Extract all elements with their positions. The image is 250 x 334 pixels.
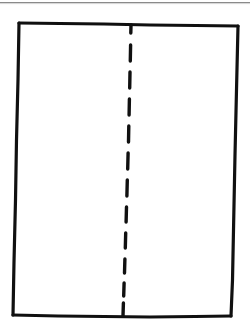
figure-canvas (0, 0, 250, 334)
hand-drawn-figure (0, 0, 250, 334)
